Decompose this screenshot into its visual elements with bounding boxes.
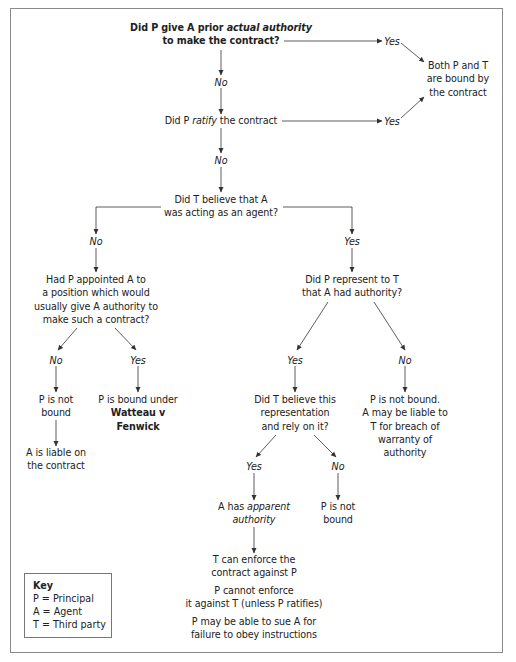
edge-label-yes: Yes <box>287 355 303 366</box>
legend-entry: P = Principal <box>33 592 111 605</box>
node-line: Did T believe that A <box>164 193 278 206</box>
outcome-apparent-authority: A has apparent authority <box>218 500 290 527</box>
node-line: failure to obey instructions <box>191 628 317 641</box>
node-line: P is not <box>321 500 355 513</box>
node-line: the contract <box>427 86 489 99</box>
node-line: P cannot enforce <box>186 584 323 597</box>
edge-label-yes: Yes <box>130 355 146 366</box>
outcome-p-may-sue: P may be able to sue A for failure to ob… <box>191 615 317 642</box>
node-line: make such a contract? <box>34 313 158 326</box>
node-line: P may be able to sue A for <box>191 615 317 628</box>
node-text: A has <box>218 501 247 512</box>
question-believe-agent: Did T believe that A was acting as an ag… <box>164 193 278 220</box>
node-line: T can enforce the <box>211 553 296 566</box>
edge-label-yes: Yes <box>344 236 360 247</box>
emphasis-actual-authority: actual authority <box>227 22 312 33</box>
question-ratify: Did P ratify the contract <box>165 114 278 127</box>
node-line: P is bound under <box>98 393 177 406</box>
node-line: bound <box>39 406 73 419</box>
node-line: it against T (unless P ratifies) <box>186 597 323 610</box>
node-line: the contract <box>26 459 86 472</box>
node-line: was acting as an agent? <box>164 206 278 219</box>
outcome-both-bound: Both P and T are bound by the contract <box>427 59 489 99</box>
edge-label-no: No <box>331 461 344 472</box>
node-line: P is not bound. <box>362 393 447 406</box>
legend-key: Key P = Principal A = Agent T = Third pa… <box>24 573 112 638</box>
node-text: the contract <box>217 115 277 126</box>
emphasis-ratify: ratify <box>192 115 217 126</box>
node-line: representation <box>254 406 336 419</box>
question-text: Did P give A prior <box>130 22 227 33</box>
outcome-p-cannot-enforce: P cannot enforce it against T (unless P … <box>186 584 323 611</box>
node-line: P is not <box>39 393 73 406</box>
node-line: Had P appointed A to <box>34 273 158 286</box>
outcome-breach-of-warranty: P is not bound. A may be liable to T for… <box>362 393 447 459</box>
emphasis-authority: authority <box>233 514 276 525</box>
node-line: T for breach of <box>362 420 447 433</box>
edge-label-yes: Yes <box>246 461 262 472</box>
edge-label-no: No <box>89 236 102 247</box>
node-line: that A had authority? <box>302 286 402 299</box>
node-line: warranty of <box>362 433 447 446</box>
edge-label-no: No <box>398 355 411 366</box>
node-line: usually give A authority to <box>34 300 158 313</box>
outcome-p-not-bound-left: P is not bound <box>39 393 73 420</box>
node-line: A may be liable to <box>362 406 447 419</box>
node-text: Did P <box>165 115 192 126</box>
outcome-a-liable: A is liable on the contract <box>26 446 86 473</box>
case-name: Watteau v <box>111 407 165 418</box>
legend-title: Key <box>33 579 111 592</box>
outcome-p-not-bound-right: P is not bound <box>321 500 355 527</box>
node-line: Both P and T <box>427 59 489 72</box>
question-represent: Did P represent to T that A had authorit… <box>302 273 402 300</box>
emphasis-apparent: apparent <box>247 501 290 512</box>
legend-entry: A = Agent <box>33 605 111 618</box>
edge-label-no: No <box>214 155 227 166</box>
node-line: contract against P <box>211 566 296 579</box>
node-line: and rely on it? <box>254 420 336 433</box>
case-name: Fenwick <box>98 420 177 433</box>
edge-label-no: No <box>214 77 227 88</box>
edge-label-yes: Yes <box>384 116 400 127</box>
node-line: a position which would <box>34 286 158 299</box>
node-line: bound <box>321 513 355 526</box>
node-line: are bound by <box>427 72 489 85</box>
question-appointed-position: Had P appointed A to a position which wo… <box>34 273 158 326</box>
node-line: Did T believe this <box>254 393 336 406</box>
node-line: authority <box>362 446 447 459</box>
question-believe-rely: Did T believe this representation and re… <box>254 393 336 433</box>
edge-label-yes: Yes <box>384 36 400 47</box>
node-line: Did P represent to T <box>302 273 402 286</box>
node-line: A is liable on <box>26 446 86 459</box>
legend-entry: T = Third party <box>33 618 111 631</box>
question-text: to make the contract? <box>130 34 312 47</box>
outcome-t-can-enforce: T can enforce the contract against P <box>211 553 296 580</box>
outcome-watteau-v-fenwick: P is bound under Watteau v Fenwick <box>98 393 177 433</box>
question-actual-authority: Did P give A prior actual authority to m… <box>130 21 312 48</box>
edge-label-no: No <box>49 355 62 366</box>
